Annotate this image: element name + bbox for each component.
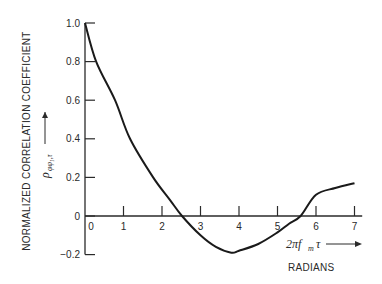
y-axis-symbol: ρ φφ₁,τ xyxy=(38,112,54,179)
y-tick-label: 0 xyxy=(74,211,80,222)
x-axis-symbol-sub: m xyxy=(308,244,314,253)
y-axis-arrow-head-icon xyxy=(42,112,48,118)
chart: −0.200.20.40.60.81.001234567 NORMALIZED … xyxy=(0,0,382,284)
y-tick-label: 1.0 xyxy=(66,18,80,29)
y-tick-label: 0.6 xyxy=(66,95,80,106)
series-line xyxy=(85,23,355,253)
x-axis-symbol-main: 2πf xyxy=(286,237,303,251)
x-axis-symbol-tau: τ xyxy=(316,237,321,251)
y-axis-symbol-rho: ρ xyxy=(38,172,52,179)
y-tick-label: 0.4 xyxy=(66,133,80,144)
x-tick-label: 2 xyxy=(159,221,165,232)
y-tick-label: 0.2 xyxy=(66,172,80,183)
x-tick-label: 4 xyxy=(236,221,242,232)
y-axis-title: NORMALIZED CORRELATION COEFFICIENT xyxy=(21,31,32,250)
x-tick-label: 6 xyxy=(313,221,319,232)
x-axis-units: RADIANS xyxy=(288,262,335,273)
x-axis-arrow-head-icon xyxy=(355,241,362,247)
curve-layer xyxy=(85,23,355,253)
axes: −0.200.20.40.60.81.001234567 xyxy=(60,18,362,261)
x-tick-label: 1 xyxy=(121,221,127,232)
y-axis-symbol-sub: φφ₁,τ xyxy=(45,153,54,171)
x-tick-label: 0 xyxy=(88,221,94,232)
x-tick-label: 7 xyxy=(352,221,358,232)
y-tick-label: 0.8 xyxy=(66,56,80,67)
labels: NORMALIZED CORRELATION COEFFICIENT ρ φφ₁… xyxy=(21,31,362,273)
x-axis-symbol: 2πf m τ xyxy=(286,237,362,253)
y-tick-label: −0.2 xyxy=(60,249,80,260)
x-tick-label: 3 xyxy=(198,221,204,232)
